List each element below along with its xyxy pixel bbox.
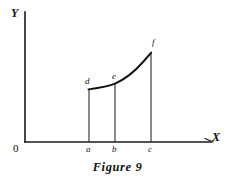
figure-drawing	[0, 0, 235, 180]
x-axis-label: X	[212, 131, 220, 143]
x-tick-label-c: c	[148, 145, 152, 154]
y-axis-label: Y	[11, 7, 18, 19]
figure-caption: Figure 9	[0, 160, 235, 175]
curve-point-label-d: d	[85, 77, 90, 86]
curve-point-label-f: f	[152, 38, 155, 47]
origin-label: 0	[13, 143, 19, 154]
x-tick-label-b: b	[112, 145, 117, 154]
figure-container: Y X 0 a b c d e f Figure 9	[0, 0, 235, 180]
x-tick-label-a: a	[86, 145, 91, 154]
function-curve	[89, 53, 152, 90]
curve-point-label-e: e	[112, 72, 116, 81]
